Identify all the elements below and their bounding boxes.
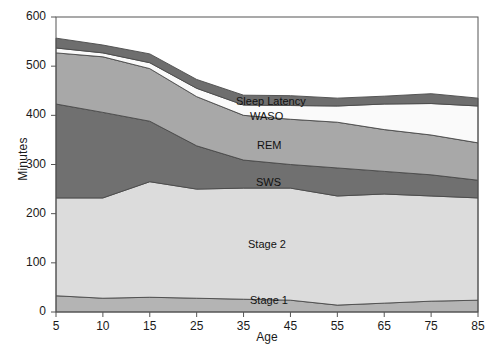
y-axis-title: Minutes xyxy=(16,114,30,204)
chart-plot-area xyxy=(0,0,499,348)
y-tick-label: 600 xyxy=(6,9,46,23)
x-axis-title: Age xyxy=(56,330,478,344)
y-tick-label: 200 xyxy=(6,206,46,220)
y-tick-label: 500 xyxy=(6,58,46,72)
y-tick-label: 100 xyxy=(6,255,46,269)
y-tick-label: 0 xyxy=(6,304,46,318)
sleep-architecture-chart: 0100200300400500600 5101525354555657585 … xyxy=(0,0,499,348)
area-layer-stage-2 xyxy=(56,182,478,305)
stacked-area-layers xyxy=(56,38,478,312)
